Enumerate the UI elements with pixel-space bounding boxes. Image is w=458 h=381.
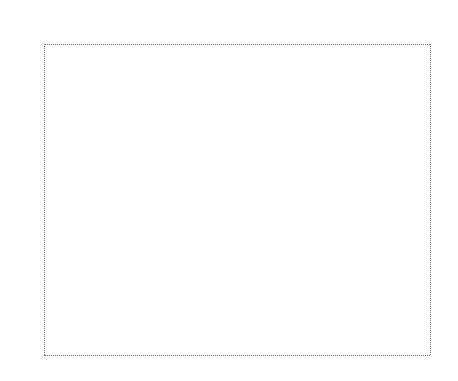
- plot-border-right: [430, 44, 431, 355]
- plot-border-left: [44, 44, 45, 355]
- plot-border-top: [44, 44, 430, 45]
- plot-border-bottom: [44, 355, 430, 356]
